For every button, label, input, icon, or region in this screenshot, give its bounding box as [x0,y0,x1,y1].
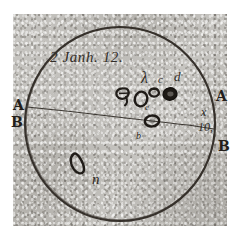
diameter-AB-stroke [28,107,215,129]
sunspot-d-small [149,89,158,97]
margin-note-x: x [200,105,207,119]
pen-scuff-marks [37,115,46,119]
edge-label-A-left: A [12,97,25,113]
edge-label-A-right: A [215,88,228,104]
sunspot-n-elongated [71,153,84,173]
engraving-plate: 2 Janh. 12. λ c d e b n A B A B x 10, [0,0,239,240]
edge-label-B-right: B [218,138,230,154]
label-b: b [136,130,141,141]
caption-date: 2 Janh. 12. [50,49,123,65]
sunspot-lambda-blot [116,88,129,105]
margin-note-10: 10, [198,120,213,134]
label-d: d [174,69,181,84]
edge-label-B-left: B [11,114,23,130]
sunspot-d-large [162,87,178,101]
ink-drawing-layer: 2 Janh. 12. λ c d e b n A B A B x 10, [0,0,239,240]
label-c-top: c [158,73,163,85]
label-e: e [145,102,149,112]
label-n: n [92,171,100,187]
diameter-AB [28,107,215,129]
caption-date-text: 2 Janh. 12. [50,49,123,65]
label-lambda: λ [140,69,148,86]
